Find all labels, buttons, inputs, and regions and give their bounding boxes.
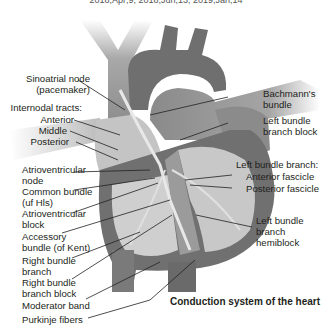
label-line: bundle (of Kent)	[22, 242, 90, 253]
label-line: Anterior fascicle	[246, 171, 314, 182]
label-av-block: Atrioventricular block	[22, 208, 86, 230]
label-line: Posterior	[0, 136, 69, 147]
label-right-bundle-branch: Right bundle branch	[22, 255, 76, 277]
label-line: block	[22, 219, 86, 230]
label-anterior: Anterior	[0, 114, 74, 125]
label-left-bundle-branch-hemiblock: Left bundle branch hemiblock	[256, 215, 303, 248]
label-line: Accessory	[22, 231, 90, 242]
label-line: bundle	[263, 99, 316, 110]
label-line: Atrioventricular	[22, 208, 86, 219]
label-line: Right bundle	[22, 255, 76, 266]
label-av-node: Atrioventricular node	[22, 164, 86, 186]
label-posterior: Posterior	[0, 136, 69, 147]
label-line: Sinoatrial node	[6, 73, 90, 84]
label-line: Right bundle	[22, 277, 76, 288]
label-left-bundle-branch: Left bundle branch:	[236, 159, 318, 170]
label-line: branch	[256, 226, 303, 237]
label-line: Left bundle	[263, 115, 317, 126]
label-line: Bachmann's	[263, 88, 316, 99]
label-bachmanns-bundle: Bachmann's bundle	[263, 88, 316, 110]
label-accessory-bundle: Accessory bundle (of Kent)	[22, 231, 90, 253]
label-line: Moderator band	[22, 300, 90, 311]
label-line: Middle	[0, 125, 67, 136]
diagram-title: Conduction system of the heart	[170, 296, 320, 307]
label-line: node	[22, 175, 86, 186]
label-line: hemiblock	[256, 237, 303, 248]
label-line: Internodal tracts:	[0, 102, 82, 113]
label-internodal-tracts: Internodal tracts:	[0, 102, 82, 113]
label-line: Left bundle branch:	[236, 159, 318, 170]
label-line: (pacemaker)	[6, 84, 90, 95]
label-line: (uf Hls)	[22, 197, 92, 208]
label-purkinje-fibers: Purkinje fibers	[22, 314, 83, 325]
label-line: Anterior	[0, 114, 74, 125]
label-posterior-fascicle: Posterior fascicle	[246, 183, 319, 194]
label-common-bundle: Common bundle (uf Hls)	[22, 186, 92, 208]
label-line: Posterior fascicle	[246, 183, 319, 194]
label-moderator-band: Moderator band	[22, 300, 90, 311]
label-left-bundle-branch-block: Left bundle branch block	[263, 115, 317, 137]
label-line: branch block	[22, 288, 76, 299]
label-line: Atrioventricular	[22, 164, 86, 175]
label-line: Common bundle	[22, 186, 92, 197]
label-middle: Middle	[0, 125, 67, 136]
label-line: Purkinje fibers	[22, 314, 83, 325]
label-sinoatrial-node: Sinoatrial node (pacemaker)	[6, 73, 90, 95]
label-right-bundle-branch-block: Right bundle branch block	[22, 277, 76, 299]
label-line: branch block	[263, 126, 317, 137]
label-anterior-fascicle: Anterior fascicle	[246, 171, 314, 182]
label-line: branch	[22, 266, 76, 277]
label-line: Left bundle	[256, 215, 303, 226]
